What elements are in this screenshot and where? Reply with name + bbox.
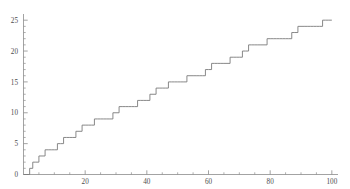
data-series-line — [24, 20, 332, 174]
y-axis-tick-label: 5 — [14, 140, 18, 148]
step-plot: 204060801000510152025 — [0, 0, 350, 189]
y-axis-tick-label: 10 — [11, 109, 19, 117]
y-axis-tick-label: 15 — [11, 79, 19, 87]
x-axis-tick-label: 100 — [326, 178, 337, 186]
x-axis-tick-label: 40 — [143, 178, 151, 186]
x-axis-tick-label: 60 — [205, 178, 213, 186]
chart-figure: 204060801000510152025 — [0, 0, 350, 189]
x-axis-tick-label: 20 — [82, 178, 90, 186]
y-axis-tick-label: 20 — [11, 48, 19, 56]
y-axis: 0510152025 — [11, 14, 28, 179]
x-axis: 20406080100 — [24, 170, 339, 186]
x-axis-tick-label: 80 — [267, 178, 275, 186]
y-axis-tick-label: 25 — [11, 17, 19, 25]
y-axis-tick-label: 0 — [14, 171, 18, 179]
